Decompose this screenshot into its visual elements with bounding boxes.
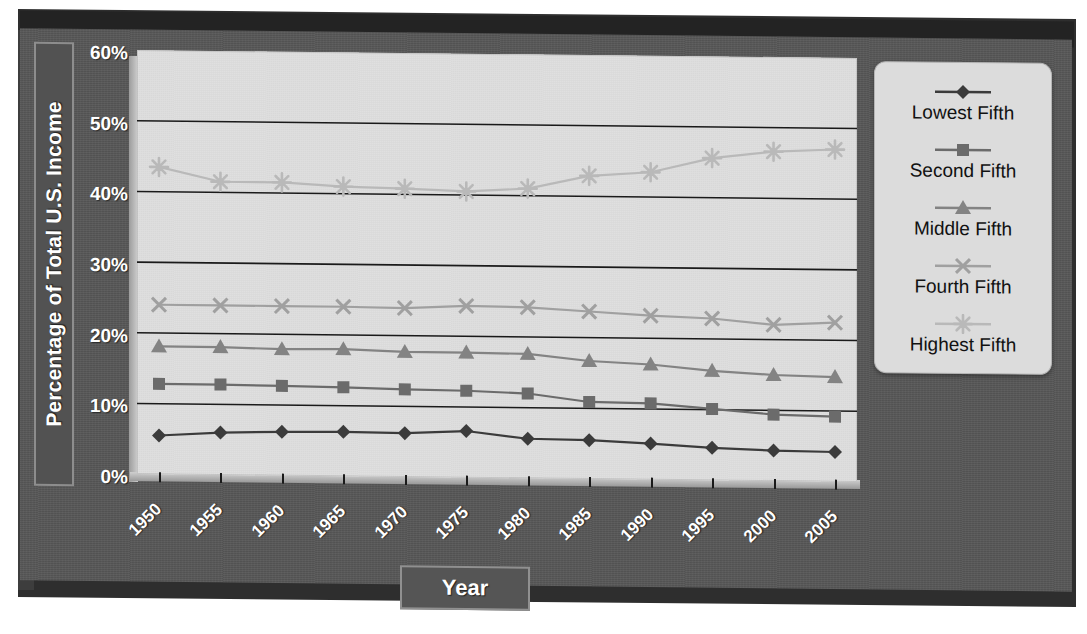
x-tick-label: 2005 bbox=[801, 507, 842, 548]
marker-starburst bbox=[642, 163, 660, 181]
x-tick-label: 1985 bbox=[555, 504, 596, 545]
legend-marker-x-icon bbox=[921, 256, 1005, 277]
y-tick-label: 40% bbox=[66, 183, 128, 206]
marker-square bbox=[706, 403, 718, 415]
legend-marker-square-icon bbox=[921, 140, 1005, 161]
x-tick-mark bbox=[220, 473, 222, 483]
marker-square bbox=[276, 380, 288, 392]
marker-square bbox=[522, 387, 534, 399]
series-middle-fifth bbox=[151, 338, 843, 383]
marker-starburst bbox=[954, 315, 972, 333]
x-tick-mark bbox=[405, 475, 407, 485]
legend-label: Fourth Fifth bbox=[914, 276, 1011, 296]
marker-diamond bbox=[275, 425, 289, 439]
legend-item-middle-fifth[interactable]: Middle Fifth bbox=[875, 188, 1051, 248]
marker-square bbox=[957, 144, 969, 156]
legend-item-second-fifth[interactable]: Second Fifth bbox=[875, 130, 1051, 190]
gridline bbox=[137, 333, 857, 341]
legend-marker-starburst-icon bbox=[921, 314, 1005, 335]
series-fourth-fifth bbox=[152, 296, 842, 333]
x-tick-mark bbox=[589, 477, 591, 487]
series-second-fifth bbox=[153, 378, 841, 423]
marker-square bbox=[645, 397, 657, 409]
marker-square bbox=[768, 409, 780, 421]
y-tick-label: 30% bbox=[66, 254, 128, 277]
x-axis-tick-labels: 1950195519601965197019751980198519901995… bbox=[137, 484, 867, 572]
legend-item-fourth-fifth[interactable]: Fourth Fifth bbox=[875, 246, 1051, 306]
series-line bbox=[159, 142, 835, 195]
x-tick-mark bbox=[651, 478, 653, 488]
series-line bbox=[159, 428, 835, 452]
marker-starburst bbox=[396, 180, 414, 198]
y-tick-label: 20% bbox=[66, 324, 128, 347]
series-line bbox=[159, 346, 835, 377]
x-tick-mark bbox=[835, 480, 837, 490]
x-tick-label: 1970 bbox=[371, 502, 412, 543]
y-axis-tick-labels: 0%10%20%30%40%50%60% bbox=[62, 0, 128, 560]
x-tick-mark bbox=[282, 474, 284, 484]
marker-diamond bbox=[398, 426, 412, 440]
marker-square bbox=[829, 411, 841, 423]
series-highest-fifth bbox=[150, 133, 844, 204]
gridline bbox=[137, 403, 857, 411]
marker-diamond bbox=[459, 424, 473, 438]
marker-starburst bbox=[765, 143, 783, 161]
marker-square bbox=[460, 385, 472, 397]
chart-screenshot: Percentage of Total U.S. Income 0%10%20%… bbox=[0, 0, 1087, 634]
marker-starburst bbox=[457, 182, 475, 200]
marker-starburst bbox=[150, 158, 168, 176]
marker-starburst bbox=[580, 167, 598, 185]
x-axis-title: Year bbox=[442, 575, 489, 602]
marker-diamond bbox=[336, 425, 350, 439]
x-tick-mark bbox=[159, 472, 161, 482]
marker-diamond bbox=[767, 444, 781, 458]
chart-legend: Lowest FifthSecond FifthMiddle FifthFour… bbox=[874, 61, 1052, 375]
marker-diamond bbox=[705, 441, 719, 455]
marker-diamond bbox=[152, 428, 166, 442]
marker-starburst bbox=[826, 140, 844, 158]
x-tick-label: 2000 bbox=[740, 506, 781, 547]
marker-square bbox=[399, 383, 411, 395]
legend-label: Middle Fifth bbox=[914, 218, 1012, 238]
x-tick-label: 1995 bbox=[678, 505, 719, 546]
x-tick-label: 1955 bbox=[186, 500, 227, 541]
marker-square bbox=[153, 378, 165, 390]
marker-starburst bbox=[334, 178, 352, 196]
x-tick-mark bbox=[712, 478, 714, 488]
x-tick-mark bbox=[343, 474, 345, 484]
marker-starburst bbox=[519, 180, 537, 198]
legend-marker-diamond-icon bbox=[921, 82, 1005, 103]
series-line bbox=[159, 303, 835, 326]
x-tick-mark bbox=[466, 476, 468, 486]
legend-item-lowest-fifth[interactable]: Lowest Fifth bbox=[875, 72, 1051, 132]
marker-diamond bbox=[644, 437, 658, 451]
legend-label: Highest Fifth bbox=[910, 334, 1017, 354]
y-tick-label: 0% bbox=[66, 466, 128, 489]
marker-starburst bbox=[273, 173, 291, 191]
gridline bbox=[137, 262, 857, 270]
x-tick-label: 1965 bbox=[309, 501, 350, 542]
gridline bbox=[137, 121, 857, 129]
marker-diamond bbox=[828, 445, 842, 459]
marker-diamond bbox=[213, 426, 227, 440]
x-tick-label: 1990 bbox=[617, 505, 658, 546]
legend-item-highest-fifth[interactable]: Highest Fifth bbox=[875, 304, 1051, 364]
marker-diamond bbox=[956, 85, 970, 99]
series-line bbox=[159, 384, 835, 417]
marker-diamond bbox=[521, 432, 535, 446]
x-tick-label: 1980 bbox=[494, 503, 535, 544]
marker-starburst bbox=[211, 173, 229, 191]
legend-marker-triangle-icon bbox=[921, 198, 1005, 219]
marker-square bbox=[583, 396, 595, 408]
marker-diamond bbox=[582, 433, 596, 447]
x-tick-label: 1960 bbox=[248, 501, 289, 542]
legend-label: Second Fifth bbox=[910, 160, 1017, 180]
chart-canvas bbox=[137, 50, 857, 482]
marker-square bbox=[214, 378, 226, 390]
y-tick-label: 60% bbox=[66, 42, 128, 65]
x-tick-mark bbox=[774, 479, 776, 489]
legend-label: Lowest Fifth bbox=[912, 102, 1014, 122]
gridline bbox=[137, 191, 857, 199]
series-lowest-fifth bbox=[152, 421, 842, 459]
x-tick-mark bbox=[528, 476, 530, 486]
